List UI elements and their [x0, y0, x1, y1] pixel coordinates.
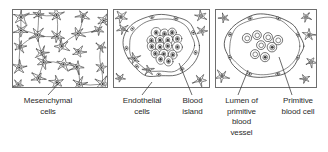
- label-blood-island: Blood island: [174, 96, 211, 117]
- label-mesenchymal-cells: Mesenchymal cells: [9, 96, 87, 117]
- label-lumen-of-primitive-blood-vessel: Lumen of primitive blood vessel: [214, 96, 269, 138]
- blood-vessel-formation-figure: Mesenchymal cells Endothelial cells Bloo…: [0, 0, 328, 152]
- histology-line-art: [0, 0, 328, 152]
- label-primitive-blood-cell: Primitive blood cell: [271, 96, 325, 117]
- label-endothelial-cells: Endothelial cells: [111, 96, 173, 117]
